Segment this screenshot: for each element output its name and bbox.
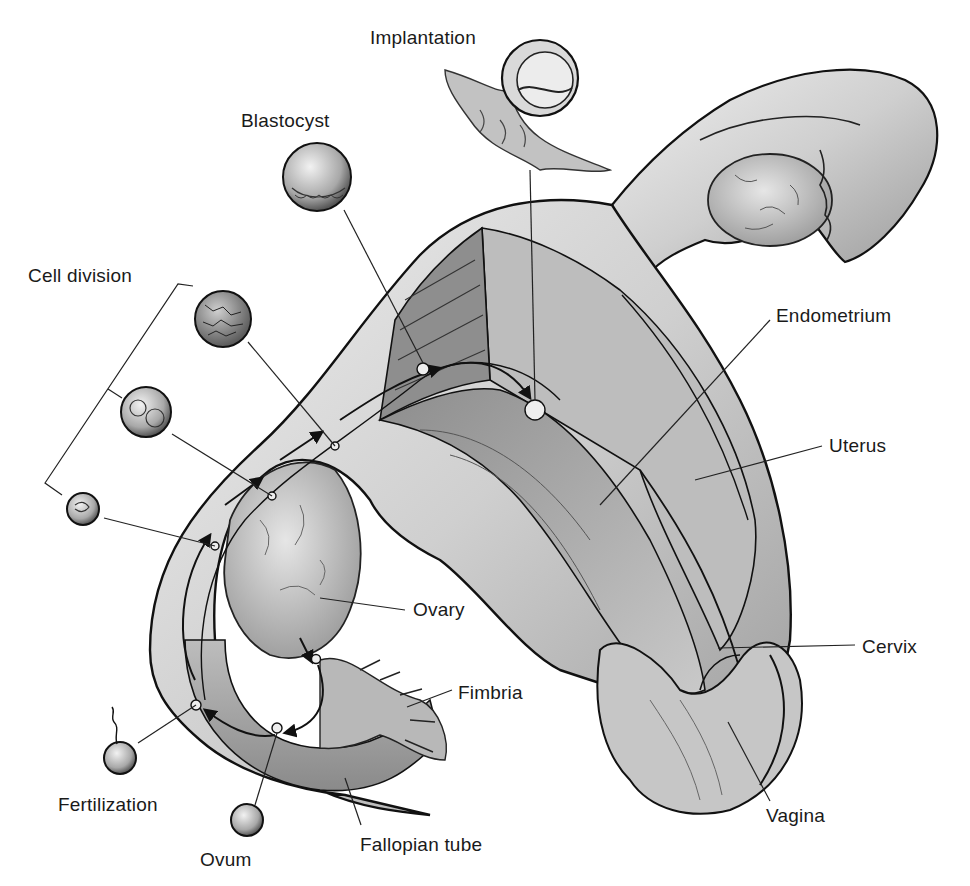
label-endometrium: Endometrium	[776, 306, 891, 325]
reproductive-tract-illustration	[0, 0, 970, 886]
two-cell-embryo	[67, 493, 99, 525]
label-blastocyst: Blastocyst	[241, 111, 330, 130]
blastocyst-cell	[283, 143, 351, 211]
label-ovary: Ovary	[413, 600, 465, 619]
label-implantation: Implantation	[370, 28, 476, 47]
label-fimbria: Fimbria	[458, 683, 523, 702]
fertilized-egg-with-sperm	[104, 707, 136, 774]
ovum-cell	[231, 804, 263, 836]
label-fertilization: Fertilization	[58, 795, 158, 814]
morula-cell	[195, 291, 251, 347]
label-cell-division: Cell division	[28, 266, 132, 285]
label-fallopian-tube: Fallopian tube	[360, 835, 482, 854]
four-cell-embryo	[121, 387, 171, 437]
label-ovum: Ovum	[200, 850, 251, 869]
label-cervix: Cervix	[862, 637, 917, 656]
right-tube-and-ovary	[612, 70, 937, 275]
label-vagina: Vagina	[766, 806, 825, 825]
implantation-inset	[445, 40, 610, 171]
label-uterus: Uterus	[829, 436, 886, 455]
